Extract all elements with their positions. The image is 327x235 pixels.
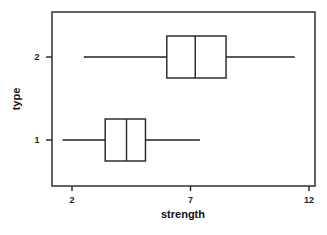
x-tick-label: 2	[69, 195, 74, 205]
x-axis: 2712	[69, 186, 314, 205]
boxplot-chart: 2712 12 strength type	[0, 0, 327, 235]
iqr-box	[105, 119, 145, 161]
iqr-box	[167, 36, 226, 78]
y-axis: 12	[34, 52, 52, 145]
x-tick-label: 7	[188, 195, 193, 205]
y-tick-label: 1	[34, 135, 39, 145]
x-axis-label: strength	[161, 208, 205, 220]
y-tick-label: 2	[34, 52, 39, 62]
y-axis-label: type	[10, 88, 22, 111]
box-type-2	[84, 36, 295, 78]
box-type-1	[63, 119, 200, 161]
box-series	[63, 36, 295, 161]
x-tick-label: 12	[304, 195, 314, 205]
